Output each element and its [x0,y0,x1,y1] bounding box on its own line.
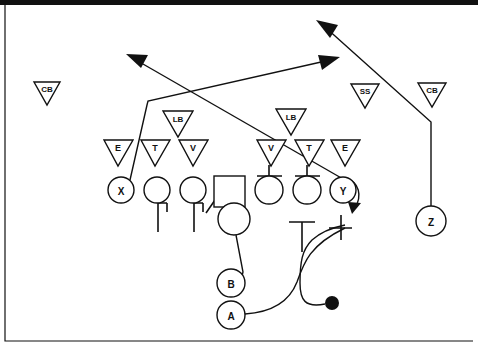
block-center-lead [289,222,315,252]
play-canvas: CB LB LB SS CB E T V [0,0,478,347]
defender-cb-right[interactable]: CB [418,83,446,107]
offense-lineman-1[interactable] [144,177,170,203]
defender-lb-left-label: LB [173,115,184,124]
defender-dl-v-left-label: V [190,143,196,153]
defender-dl-e-left[interactable]: E [104,140,133,166]
offense-z-receiver[interactable]: Z [416,206,446,236]
offense-back-a-label: A [227,311,234,322]
block-lineman-1 [158,203,167,232]
defender-cb-left-label: CB [41,85,53,94]
football-icon [325,296,339,310]
football-play-diagram: CB LB LB SS CB E T V [0,0,478,347]
block-y-edge [329,215,352,240]
offense-lineman-4[interactable] [293,176,321,204]
defender-dl-e-left-label: E [115,143,121,153]
route-z-post [316,20,431,206]
motion-ball [300,225,345,305]
offense-y-receiver-label: Y [340,186,347,197]
defender-lb-left[interactable]: LB [163,111,193,137]
defender-dl-v-left[interactable]: V [179,140,208,166]
defender-ss[interactable]: SS [351,84,379,108]
defender-dl-t-left[interactable]: T [141,140,170,166]
defender-dl-t-right[interactable]: T [295,140,324,166]
defender-ss-label: SS [360,87,371,96]
defender-cb-left[interactable]: CB [34,82,60,105]
route-y-deep-out [126,54,350,183]
offense-back-a[interactable]: A [217,301,245,329]
y-hook-arrowhead [348,202,361,214]
defender-dl-t-right-label: T [306,143,312,153]
offense-back-b-label: B [227,279,234,290]
offense-lineman-2[interactable] [180,177,206,203]
offense-y-receiver[interactable]: Y [330,177,356,203]
offense-lineman-3[interactable] [255,176,283,204]
route-y-arrowhead [126,54,148,68]
defender-dl-t-left-label: T [152,143,158,153]
defender-lb-right-label: LB [286,113,297,122]
defender-cb-right-label: CB [426,86,438,95]
defender-dl-e-right[interactable]: E [331,140,360,166]
block-lineman-2 [194,203,203,232]
block-dl-t-right [295,165,320,176]
offense-quarterback[interactable] [218,203,250,235]
top-border-bar [0,0,478,5]
offense-x-receiver-label: X [118,186,125,197]
block-dl-v-right [257,165,282,176]
route-x-arrowhead [318,55,340,70]
defender-lb-right[interactable]: LB [276,109,306,135]
offense-x-receiver[interactable]: X [108,177,134,203]
offense-back-b[interactable]: B [217,269,245,297]
offense-center[interactable] [214,176,245,207]
defender-dl-v-right[interactable]: V [257,140,286,166]
defender-dl-e-right-label: E [342,143,348,153]
defender-dl-v-right-label: V [268,143,274,153]
offense-z-receiver-label: Z [428,217,434,228]
